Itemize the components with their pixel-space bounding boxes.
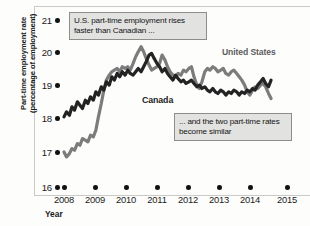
chart-figure: Part-time employment rate (percentage of… xyxy=(0,0,310,226)
series-label-canada: Canada xyxy=(142,95,173,105)
bottom-annotation: ... and the two part-time rates become s… xyxy=(174,113,292,141)
top-annotation: U.S. part-time employment rises faster t… xyxy=(69,12,207,40)
series-label-united-states: United States xyxy=(222,47,276,57)
